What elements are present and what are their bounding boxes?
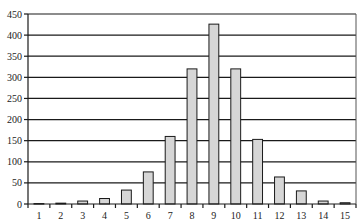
- x-tick-label: 7: [168, 210, 173, 221]
- bar-chart: 050100150200250300350400450 123456789101…: [0, 0, 364, 224]
- bar: [100, 199, 110, 204]
- y-tick-label: 300: [7, 72, 22, 83]
- bar: [209, 24, 219, 204]
- bar: [231, 69, 241, 204]
- x-tick-label: 9: [211, 210, 216, 221]
- y-tick-label: 150: [7, 135, 22, 146]
- x-axis-ticks: 123456789101112131415: [28, 204, 356, 221]
- x-tick-label: 5: [124, 210, 129, 221]
- x-tick-label: 8: [190, 210, 195, 221]
- y-tick-label: 0: [17, 199, 22, 210]
- bar: [121, 190, 131, 204]
- x-tick-label: 15: [340, 210, 350, 221]
- bar: [165, 136, 175, 204]
- y-tick-label: 450: [7, 9, 22, 20]
- y-tick-label: 400: [7, 30, 22, 41]
- y-tick-label: 100: [7, 156, 22, 167]
- x-tick-label: 10: [231, 210, 241, 221]
- x-tick-label: 3: [80, 210, 85, 221]
- x-tick-label: 1: [36, 210, 41, 221]
- y-tick-label: 50: [12, 177, 22, 188]
- y-tick-label: 250: [7, 93, 22, 104]
- bar: [296, 191, 306, 204]
- bar: [187, 69, 197, 204]
- bar: [143, 172, 153, 204]
- bars: [34, 24, 350, 204]
- bar: [253, 139, 263, 204]
- x-tick-label: 14: [318, 210, 328, 221]
- bar: [275, 177, 285, 204]
- x-tick-label: 2: [58, 210, 63, 221]
- x-tick-label: 11: [253, 210, 263, 221]
- y-tick-label: 350: [7, 51, 22, 62]
- x-tick-label: 13: [296, 210, 306, 221]
- y-tick-label: 200: [7, 114, 22, 125]
- x-tick-label: 6: [146, 210, 151, 221]
- x-tick-label: 12: [274, 210, 284, 221]
- x-tick-label: 4: [102, 210, 107, 221]
- y-axis-ticks: 050100150200250300350400450: [7, 9, 28, 210]
